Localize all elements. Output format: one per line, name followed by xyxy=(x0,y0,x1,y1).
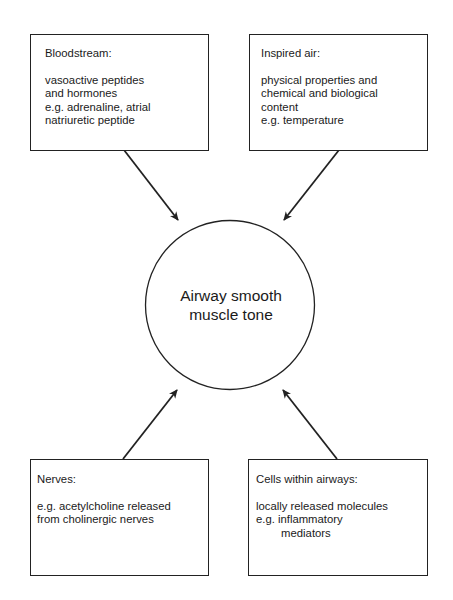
box-title: Inspired air: xyxy=(261,47,427,61)
box-line: locally released molecules xyxy=(256,500,427,514)
arrow-bloodstream xyxy=(124,150,178,220)
box-title: Nerves: xyxy=(37,473,208,487)
box-line: mediators xyxy=(256,527,427,541)
arrow-cells xyxy=(283,390,337,459)
box-title: Bloodstream: xyxy=(45,47,208,61)
box-line: and hormones xyxy=(45,87,208,101)
box-title: Cells within airways: xyxy=(256,473,427,487)
box-line: e.g. acetylcholine released xyxy=(37,500,208,514)
arrow-nerves xyxy=(123,390,177,459)
box-line: vasoactive peptides xyxy=(45,74,208,88)
center-label-line1: Airway smooth xyxy=(180,286,282,305)
box-line: e.g. adrenaline, atrial xyxy=(45,101,208,115)
box-inspired-air: Inspired air: physical properties and ch… xyxy=(249,34,428,151)
box-line: from cholinergic nerves xyxy=(37,513,208,527)
arrow-inspired-air xyxy=(284,150,339,220)
box-line: content xyxy=(261,101,427,115)
box-line: e.g. temperature xyxy=(261,114,427,128)
box-cells-within-airways: Cells within airways: locally released m… xyxy=(248,459,428,576)
box-line: physical properties and xyxy=(261,74,427,88)
box-bloodstream: Bloodstream: vasoactive peptides and hor… xyxy=(30,34,209,151)
center-node-label: Airway smooth muscle tone xyxy=(146,220,316,390)
box-line: e.g. inflammatory xyxy=(256,513,427,527)
box-line: natriuretic peptide xyxy=(45,114,208,128)
center-label-line2: muscle tone xyxy=(180,305,282,324)
box-line: chemical and biological xyxy=(261,87,427,101)
box-nerves: Nerves: e.g. acetylcholine released from… xyxy=(30,459,209,576)
